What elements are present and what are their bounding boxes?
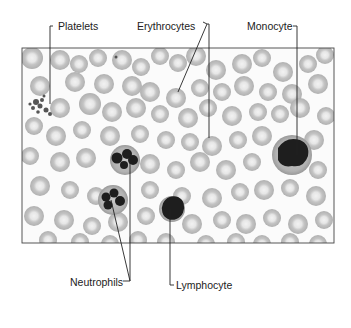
label-lymphocyte: Lymphocyte — [176, 279, 232, 291]
label-platelets: Platelets — [58, 20, 98, 32]
label-neutrophils: Neutrophils — [70, 276, 123, 288]
micrograph — [21, 46, 335, 253]
label-erythrocytes: Erythrocytes — [137, 20, 195, 32]
monocyte-cell — [272, 135, 312, 175]
neutrophil-cell-lower — [98, 185, 128, 215]
label-monocyte: Monocyte — [247, 20, 293, 32]
neutrophil-cell-upper — [110, 145, 140, 175]
